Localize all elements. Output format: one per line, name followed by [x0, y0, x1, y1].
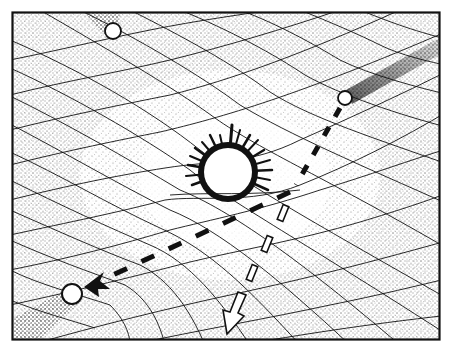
right-ball — [338, 91, 352, 105]
illustration-canvas — [0, 0, 455, 354]
spacetime-illustration — [0, 0, 455, 354]
body-core — [204, 148, 252, 196]
top-ball — [105, 23, 121, 39]
left-ball — [62, 284, 82, 304]
